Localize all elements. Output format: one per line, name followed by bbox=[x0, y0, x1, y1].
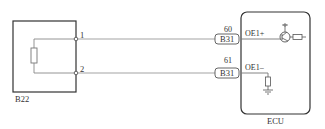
signal-oe1-minus-label: OE1– bbox=[245, 63, 265, 72]
pin-2-label: 2 bbox=[80, 64, 84, 74]
pullup-resistor-icon bbox=[293, 35, 302, 40]
ecu-pin-61-label: 61 bbox=[224, 56, 232, 65]
resistor-icon bbox=[31, 48, 37, 63]
connector-b31-top-label: B31 bbox=[220, 34, 234, 44]
pin-1-label: 1 bbox=[80, 30, 84, 40]
sensor-b22-box bbox=[13, 21, 76, 92]
ecu-pin-60-label: 60 bbox=[224, 25, 232, 34]
pin-2-terminal-icon bbox=[74, 71, 78, 75]
wiring-diagram: 1 2 B22 60 B31 61 B31 ECU OE1+ OE1– bbox=[0, 0, 325, 129]
sensor-internal-wire-bottom bbox=[34, 63, 76, 73]
sensor-label: B22 bbox=[15, 94, 29, 104]
signal-oe1-plus-label: OE1+ bbox=[245, 29, 265, 38]
pin-1-terminal-icon bbox=[74, 37, 78, 41]
oe1-minus-wire bbox=[241, 73, 268, 77]
ecu-label: ECU bbox=[267, 116, 284, 126]
connector-b31-bottom-label: B31 bbox=[220, 68, 234, 78]
sensor-internal-wire-top bbox=[34, 39, 76, 48]
ground-resistor-icon bbox=[266, 77, 271, 86]
